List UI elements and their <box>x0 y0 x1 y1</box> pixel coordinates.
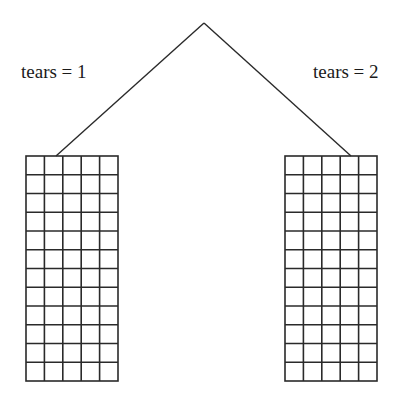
branch-edge-left <box>56 23 204 156</box>
decision-tree-diagram <box>0 0 402 396</box>
branch-label-right: tears = 2 <box>313 62 379 81</box>
leaf-grids <box>26 156 377 381</box>
tree-edges <box>56 23 351 156</box>
leaf-grid-left <box>26 156 118 381</box>
leaf-grid-right <box>285 156 377 381</box>
branch-label-left: tears = 1 <box>21 62 87 81</box>
branch-edge-right <box>204 23 351 156</box>
